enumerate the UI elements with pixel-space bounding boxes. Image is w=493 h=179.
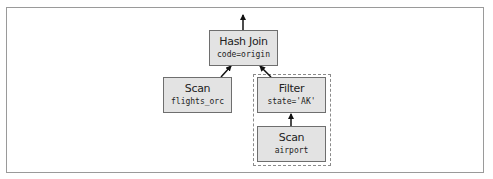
edges <box>0 0 493 179</box>
node-detail: state='AK' <box>258 96 325 107</box>
edge-filter-to-join <box>260 66 271 77</box>
node-filter: Filter state='AK' <box>257 77 326 113</box>
node-detail: code=origin <box>210 49 277 60</box>
node-title: Hash Join <box>210 35 277 48</box>
edge-scan-flights-to-join <box>221 66 231 77</box>
node-title: Scan <box>164 82 231 95</box>
node-title: Filter <box>258 82 325 95</box>
node-detail: flights_orc <box>164 96 231 107</box>
node-scan-airport: Scan airport <box>257 126 326 162</box>
node-hash-join: Hash Join code=origin <box>209 30 278 66</box>
node-scan-flights: Scan flights_orc <box>163 77 232 113</box>
node-detail: airport <box>258 145 325 156</box>
node-title: Scan <box>258 131 325 144</box>
